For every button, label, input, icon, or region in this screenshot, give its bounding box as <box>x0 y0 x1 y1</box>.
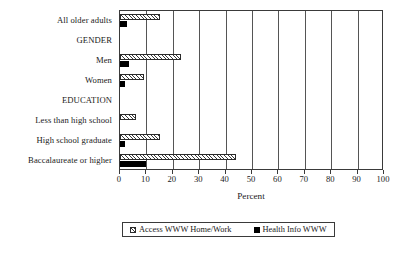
category-label: All older adults <box>0 15 112 25</box>
legend-label: Access WWW Home/Work <box>139 225 232 234</box>
category-axis-labels: All older adultsGENDERMenWomenEDUCATIONL… <box>0 10 116 170</box>
bar-group <box>120 93 382 109</box>
horizontal-bar-chart: All older adultsGENDERMenWomenEDUCATIONL… <box>0 0 402 253</box>
hatched-swatch <box>130 227 136 233</box>
bar-access-www <box>120 14 160 20</box>
bar-group <box>120 33 382 49</box>
bar-health-info <box>120 61 129 67</box>
bar-access-www <box>120 54 181 60</box>
category-label: Less than high school <box>0 115 112 125</box>
chart-legend: Access WWW Home/WorkHealth Info WWW <box>122 222 335 237</box>
bar-access-www <box>120 134 160 140</box>
bar-health-info <box>120 21 127 27</box>
bar-group <box>120 13 382 29</box>
category-label: Baccalaureate or higher <box>0 155 112 165</box>
legend-label: Health Info WWW <box>263 225 327 234</box>
bar-group <box>120 113 382 129</box>
bar-access-www <box>120 154 236 160</box>
bar-group <box>120 53 382 69</box>
bar-access-www <box>120 74 144 80</box>
plot-area <box>119 10 383 170</box>
bar-health-info <box>120 81 125 87</box>
bar-group <box>120 73 382 89</box>
black-swatch <box>254 227 260 233</box>
bar-health-info <box>120 161 146 167</box>
category-label: GENDER <box>0 35 112 45</box>
category-label: High school graduate <box>0 135 112 145</box>
bar-health-info <box>120 141 125 147</box>
legend-entry: Access WWW Home/Work <box>130 225 232 234</box>
category-label: Women <box>0 75 112 85</box>
bar-group <box>120 153 382 169</box>
category-label: EDUCATION <box>0 95 112 105</box>
x-axis: 0102030405060708090100 <box>119 170 383 190</box>
x-axis-title: Percent <box>119 190 383 202</box>
bar-group <box>120 133 382 149</box>
legend-entry: Health Info WWW <box>254 225 327 234</box>
category-label: Men <box>0 55 112 65</box>
x-tick-label: 100 <box>368 174 398 185</box>
bar-access-www <box>120 114 136 120</box>
